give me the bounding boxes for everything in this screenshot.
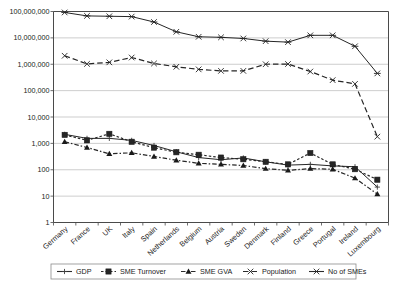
data-point-marker	[240, 36, 247, 42]
y-tick-label: 100,000,000	[10, 7, 50, 16]
series-gdp	[62, 132, 380, 190]
data-point-marker	[151, 145, 156, 150]
data-point-marker	[374, 71, 381, 77]
series-no-of-smes	[61, 10, 380, 77]
data-point-marker	[129, 139, 134, 144]
data-point-marker	[62, 53, 68, 59]
data-point-marker	[375, 134, 381, 140]
data-point-marker	[195, 34, 202, 40]
x-axis-category-labels: GermanyFranceUKItalySpainNetherlandsBelg…	[41, 224, 382, 259]
data-point-marker	[84, 13, 91, 19]
data-point-marker	[174, 150, 179, 155]
data-point-marker	[308, 150, 313, 155]
data-point-marker	[128, 14, 135, 20]
x-category-label: Italy	[120, 224, 136, 240]
data-point-marker	[375, 177, 380, 182]
data-point-marker	[241, 157, 246, 162]
x-category-label: Portugal	[311, 224, 338, 249]
legend-label: GDP	[76, 267, 92, 276]
data-point-marker	[173, 29, 180, 35]
y-tick-label: 1	[46, 218, 50, 227]
data-point-marker	[329, 33, 336, 39]
legend-label: No of SMEs	[328, 267, 367, 276]
x-category-label: Belgium	[178, 224, 204, 249]
line-chart: 1101001,00010,000100,0001,000,00010,000,…	[0, 0, 401, 290]
data-point-marker	[107, 131, 112, 136]
x-category-label: Denmark	[242, 224, 271, 251]
data-point-marker	[218, 155, 223, 160]
data-point-marker	[352, 167, 357, 172]
y-tick-label: 10,000,000	[14, 33, 50, 42]
data-point-marker	[307, 33, 314, 39]
data-point-marker	[106, 13, 113, 19]
x-category-label: France	[69, 224, 92, 246]
x-category-label: Finland	[269, 224, 293, 247]
data-point-marker	[313, 269, 320, 275]
series-line	[65, 56, 378, 137]
data-point-marker	[285, 162, 290, 167]
data-point-marker	[218, 35, 225, 41]
data-point-marker	[61, 10, 68, 16]
y-tick-label: 100	[38, 165, 50, 174]
legend-label: SME Turnover	[120, 267, 167, 276]
series-sme-gva	[62, 139, 381, 196]
data-point-marker	[62, 139, 68, 144]
data-point-marker	[374, 191, 380, 196]
data-point-marker	[308, 69, 314, 75]
data-point-marker	[330, 162, 335, 167]
y-tick-label: 100,000	[24, 86, 50, 95]
data-point-marker	[352, 43, 359, 49]
chart-container: 1101001,00010,000100,0001,000,00010,000,…	[0, 0, 401, 290]
y-tick-label: 10	[42, 192, 50, 201]
x-category-label: UK	[101, 224, 115, 238]
data-point-marker	[62, 132, 67, 137]
data-point-marker	[151, 153, 157, 158]
legend-label: SME GVA	[200, 267, 232, 276]
data-point-marker	[240, 162, 246, 167]
series-population	[62, 53, 380, 139]
data-point-marker	[285, 39, 292, 45]
gridlines-group	[54, 12, 389, 197]
data-point-marker	[352, 81, 358, 87]
data-point-marker	[196, 152, 201, 157]
data-point-marker	[263, 159, 268, 164]
legend-label: Population	[262, 267, 296, 276]
series-line	[65, 142, 378, 194]
y-tick-label: 1,000	[32, 139, 50, 148]
data-point-marker	[262, 38, 269, 44]
data-point-marker	[151, 19, 158, 25]
x-category-label: Germany	[41, 224, 70, 251]
chart-legend: GDPSME TurnoverSME GVAPopulationNo of SM…	[51, 264, 367, 279]
data-point-marker	[84, 138, 89, 143]
data-point-marker	[186, 269, 192, 274]
y-tick-label: 1,000,000	[18, 60, 50, 69]
data-point-marker	[62, 269, 67, 274]
data-point-marker	[106, 269, 111, 274]
y-tick-label: 10,000	[28, 113, 50, 122]
y-axis-tick-labels: 1101001,00010,000100,0001,000,00010,000,…	[10, 7, 54, 227]
